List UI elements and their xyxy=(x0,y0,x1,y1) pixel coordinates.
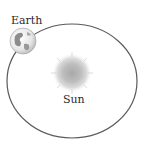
sun-label: Sun xyxy=(63,94,85,105)
earth-icon xyxy=(10,28,36,54)
earth-label: Earth xyxy=(11,15,42,26)
orbit-diagram: Earth Sun xyxy=(0,0,144,149)
sun-icon xyxy=(51,52,93,94)
